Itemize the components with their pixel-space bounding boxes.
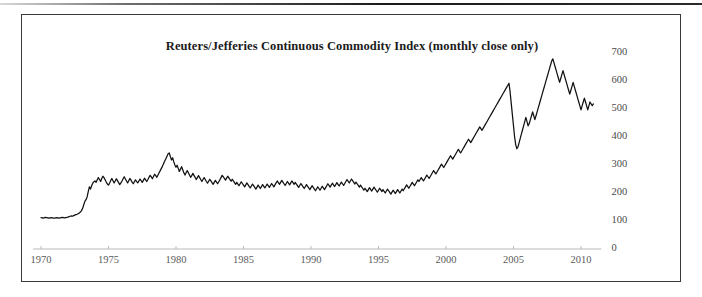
y-axis-label-300: 300 xyxy=(611,158,627,169)
plot-area xyxy=(22,15,682,283)
y-axis-label-400: 400 xyxy=(611,130,627,141)
x-axis-label-1980: 1980 xyxy=(156,254,196,265)
line-chart-svg xyxy=(22,15,682,283)
x-axis-label-1990: 1990 xyxy=(291,254,331,265)
chart-frame: Reuters/Jefferies Continuous Commodity I… xyxy=(21,14,681,282)
series-line-commodity-index xyxy=(41,59,593,218)
x-axis-label-1995: 1995 xyxy=(359,254,399,265)
y-axis-label-700: 700 xyxy=(611,46,627,57)
x-axis-label-2005: 2005 xyxy=(494,254,534,265)
x-axis-label-2000: 2000 xyxy=(426,254,466,265)
x-axis-label-1975: 1975 xyxy=(89,254,129,265)
figure-root: Reuters/Jefferies Continuous Commodity I… xyxy=(0,0,702,297)
y-axis-label-600: 600 xyxy=(611,74,627,85)
x-axis-label-1970: 1970 xyxy=(21,254,61,265)
x-axis-label-2010: 2010 xyxy=(561,254,601,265)
axis-group xyxy=(33,246,601,249)
x-axis-label-1985: 1985 xyxy=(224,254,264,265)
y-axis-label-0: 0 xyxy=(611,242,616,253)
y-axis-label-200: 200 xyxy=(611,186,627,197)
y-axis-label-100: 100 xyxy=(611,214,627,225)
page-top-rule xyxy=(0,3,702,5)
y-axis-label-500: 500 xyxy=(611,102,627,113)
